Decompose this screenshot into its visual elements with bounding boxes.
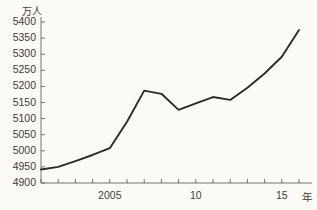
line-chart: 万人 4900495050005050510051505200525053005… — [0, 0, 317, 210]
plot-area — [0, 0, 317, 210]
data-series-line — [41, 30, 299, 169]
